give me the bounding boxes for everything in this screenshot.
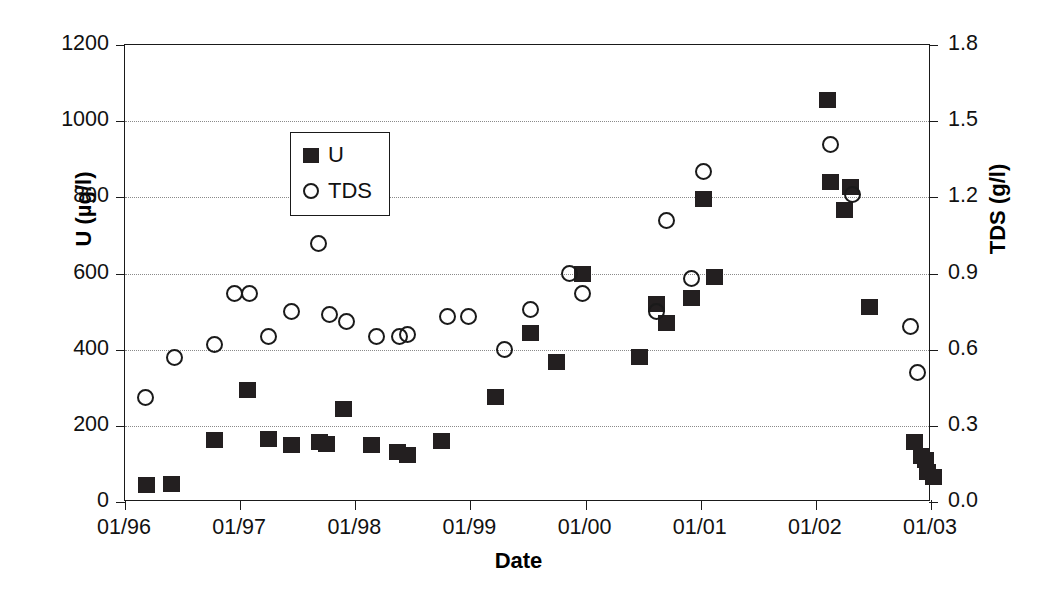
x-tick-label: 01/02: [755, 515, 875, 540]
data-point-tds: [137, 389, 154, 406]
right-tick-label: 0.3: [948, 412, 1037, 437]
data-point-u: [260, 431, 277, 447]
data-point-tds: [338, 313, 355, 330]
filled-square-icon: [303, 148, 319, 163]
data-point-u: [822, 174, 839, 190]
x-tick-label: 01/96: [64, 515, 184, 540]
x-tick-mark: [586, 500, 587, 510]
data-point-u: [206, 432, 223, 448]
data-point-tds: [909, 364, 926, 381]
data-point-tds: [260, 328, 277, 345]
left-tick-mark: [116, 45, 125, 46]
data-point-tds: [574, 285, 591, 302]
left-tick-mark: [116, 274, 125, 275]
left-tick-label: 800: [19, 183, 109, 208]
data-point-u: [683, 290, 700, 306]
x-tick-label: 01/01: [640, 515, 760, 540]
data-point-u: [522, 325, 539, 341]
data-point-tds: [460, 308, 477, 325]
data-point-u: [548, 354, 565, 370]
right-tick-label: 1.2: [948, 183, 1037, 208]
gridline: [125, 274, 929, 275]
data-point-u: [283, 437, 300, 453]
left-tick-label: 200: [19, 412, 109, 437]
x-tick-mark: [701, 500, 702, 510]
data-point-u: [399, 447, 416, 463]
right-tick-mark: [929, 350, 938, 351]
data-point-u: [819, 92, 836, 108]
plot-area: U TDS: [124, 44, 930, 501]
data-point-tds: [496, 341, 513, 358]
data-point-tds: [241, 285, 258, 302]
data-point-tds: [683, 270, 700, 287]
data-point-u: [695, 191, 712, 207]
data-point-tds: [166, 349, 183, 366]
x-tick-label: 01/03: [870, 515, 990, 540]
left-tick-mark: [116, 121, 125, 122]
data-point-u: [138, 477, 155, 493]
data-point-u: [706, 269, 723, 285]
right-tick-label: 0.6: [948, 336, 1037, 361]
data-point-tds: [695, 163, 712, 180]
data-point-u: [363, 437, 380, 453]
legend-label-u: U: [328, 144, 344, 166]
left-tick-label: 400: [19, 336, 109, 361]
gridline: [125, 350, 929, 351]
x-tick-label: 01/97: [179, 515, 299, 540]
left-tick-mark: [116, 502, 125, 503]
data-point-tds: [902, 318, 919, 335]
data-point-u: [163, 476, 180, 492]
data-point-tds: [283, 303, 300, 320]
x-tick-mark: [125, 500, 126, 510]
gridline: [125, 426, 929, 427]
chart-figure: U (µg/l) TDS (g/l) Date U TDS 0200400600…: [0, 0, 1037, 590]
x-tick-label: 01/99: [409, 515, 529, 540]
right-tick-label: 1.8: [948, 31, 1037, 56]
right-tick-label: 1.5: [948, 107, 1037, 132]
right-tick-mark: [929, 274, 938, 275]
data-point-tds: [844, 186, 861, 203]
data-point-u: [925, 469, 942, 485]
data-point-u: [487, 389, 504, 405]
data-point-tds: [658, 212, 675, 229]
right-tick-label: 0.0: [948, 488, 1037, 513]
x-tick-mark: [816, 500, 817, 510]
x-tick-label: 01/00: [525, 515, 645, 540]
legend-item-u: U: [303, 144, 344, 166]
left-tick-mark: [116, 197, 125, 198]
left-tick-mark: [116, 426, 125, 427]
left-tick-label: 1200: [19, 31, 109, 56]
right-tick-label: 0.9: [948, 260, 1037, 285]
chart-legend: U TDS: [290, 132, 390, 216]
data-point-u: [318, 436, 335, 452]
gridline: [125, 197, 929, 198]
right-tick-mark: [929, 121, 938, 122]
gridline: [125, 121, 929, 122]
data-point-tds: [561, 265, 578, 282]
data-point-tds: [822, 136, 839, 153]
legend-label-tds: TDS: [328, 180, 372, 202]
data-point-tds: [368, 328, 385, 345]
x-tick-mark: [355, 500, 356, 510]
x-tick-mark: [931, 500, 932, 510]
x-tick-mark: [470, 500, 471, 510]
data-point-u: [433, 433, 450, 449]
right-tick-mark: [929, 426, 938, 427]
data-point-u: [335, 401, 352, 417]
x-tick-mark: [240, 500, 241, 510]
data-point-u: [631, 349, 648, 365]
data-point-tds: [522, 301, 539, 318]
right-tick-mark: [929, 45, 938, 46]
right-tick-mark: [929, 197, 938, 198]
left-tick-label: 0: [19, 488, 109, 513]
x-tick-label: 01/98: [294, 515, 414, 540]
legend-item-tds: TDS: [303, 180, 372, 202]
data-point-u: [861, 299, 878, 315]
x-axis-title: Date: [0, 548, 1037, 574]
left-tick-mark: [116, 350, 125, 351]
data-point-tds: [399, 326, 416, 343]
left-tick-label: 1000: [19, 107, 109, 132]
data-point-tds: [310, 235, 327, 252]
data-point-u: [836, 202, 853, 218]
data-point-u: [239, 382, 256, 398]
